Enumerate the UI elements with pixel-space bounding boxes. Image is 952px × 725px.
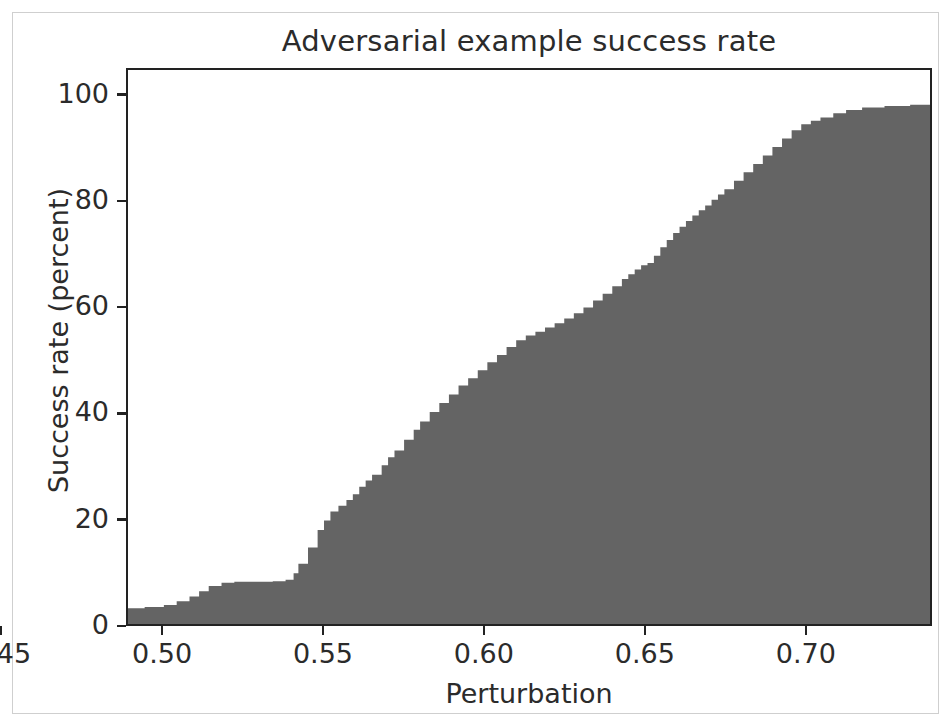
y-tick-mark	[117, 625, 126, 628]
y-tick-mark	[117, 518, 126, 521]
x-axis-label: Perturbation	[126, 678, 932, 709]
x-tick-mark	[161, 626, 164, 635]
x-tick-mark	[0, 626, 2, 635]
y-tick-mark	[117, 200, 126, 203]
y-tick-mark	[117, 306, 126, 309]
x-tick-label: 0.65	[575, 640, 715, 667]
x-tick-mark	[483, 626, 486, 635]
success-rate-area-series	[128, 104, 930, 624]
x-tick-mark	[805, 626, 808, 635]
x-tick-label: 0.70	[736, 640, 876, 667]
x-tick-label: 0.50	[92, 640, 232, 667]
figure-canvas: Adversarial example success rate 0204060…	[0, 0, 952, 725]
x-tick-label: 0.45	[0, 640, 71, 667]
x-tick-mark	[644, 626, 647, 635]
x-tick-label: 0.60	[414, 640, 554, 667]
x-tick-label: 0.55	[253, 640, 393, 667]
plot-area	[126, 68, 932, 626]
y-axis-label: Success rate (percent)	[43, 61, 74, 621]
y-tick-mark	[117, 412, 126, 415]
x-tick-mark	[322, 626, 325, 635]
chart-title: Adversarial example success rate	[126, 24, 932, 58]
area-plot-svg	[128, 70, 930, 624]
y-tick-mark	[117, 93, 126, 96]
